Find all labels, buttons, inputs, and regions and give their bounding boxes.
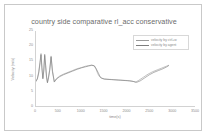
- legend-label: velocity by agent: [151, 43, 176, 47]
- chart-legend: velocity by ctrl+wvelocity by agent: [133, 35, 189, 50]
- y-axis-tick-labels: 0510152025: [19, 31, 33, 107]
- y-axis-tick: 10: [21, 75, 33, 79]
- x-axis-tick: 1500: [95, 109, 113, 113]
- y-axis-tick: 20: [21, 44, 33, 48]
- x-axis-title: time(s): [35, 115, 195, 119]
- x-axis-tick: 0: [26, 109, 44, 113]
- y-axis-tick: 15: [21, 59, 33, 63]
- x-axis-tick: 3000: [163, 109, 181, 113]
- legend-item[interactable]: velocity by agent: [136, 43, 186, 48]
- x-axis-tick: 500: [49, 109, 67, 113]
- x-axis-tick: 2500: [140, 109, 158, 113]
- series-line-1: [36, 54, 169, 83]
- y-axis-tick: 25: [21, 29, 33, 33]
- legend-line-swatch: [136, 45, 149, 46]
- legend-label: velocity by ctrl+w: [151, 38, 177, 42]
- chart-container: country side comparative rl_acc conserva…: [4, 4, 202, 131]
- x-axis-tick: 1000: [72, 109, 90, 113]
- chart-title: country side comparative rl_acc conserva…: [5, 17, 203, 26]
- y-axis-title: Velocity (m/s): [11, 49, 15, 89]
- legend-line-swatch: [136, 40, 149, 41]
- y-axis-tick: 5: [21, 90, 33, 94]
- x-axis-tick: 3500: [186, 109, 204, 113]
- x-axis-tick: 2000: [117, 109, 135, 113]
